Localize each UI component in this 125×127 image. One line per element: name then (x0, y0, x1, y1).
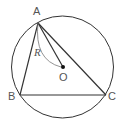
label-a: A (33, 5, 41, 17)
center-point-o (61, 65, 65, 69)
geometry-figure: A B C O R (0, 0, 125, 127)
label-b: B (8, 90, 15, 102)
label-o: O (59, 71, 68, 83)
segment-ab (20, 23, 38, 95)
segment-ca (38, 23, 106, 95)
diagram-canvas: A B C O R (0, 0, 125, 127)
radius-brace-arc (37, 23, 61, 67)
label-r: R (33, 46, 41, 58)
label-c: C (108, 90, 116, 102)
